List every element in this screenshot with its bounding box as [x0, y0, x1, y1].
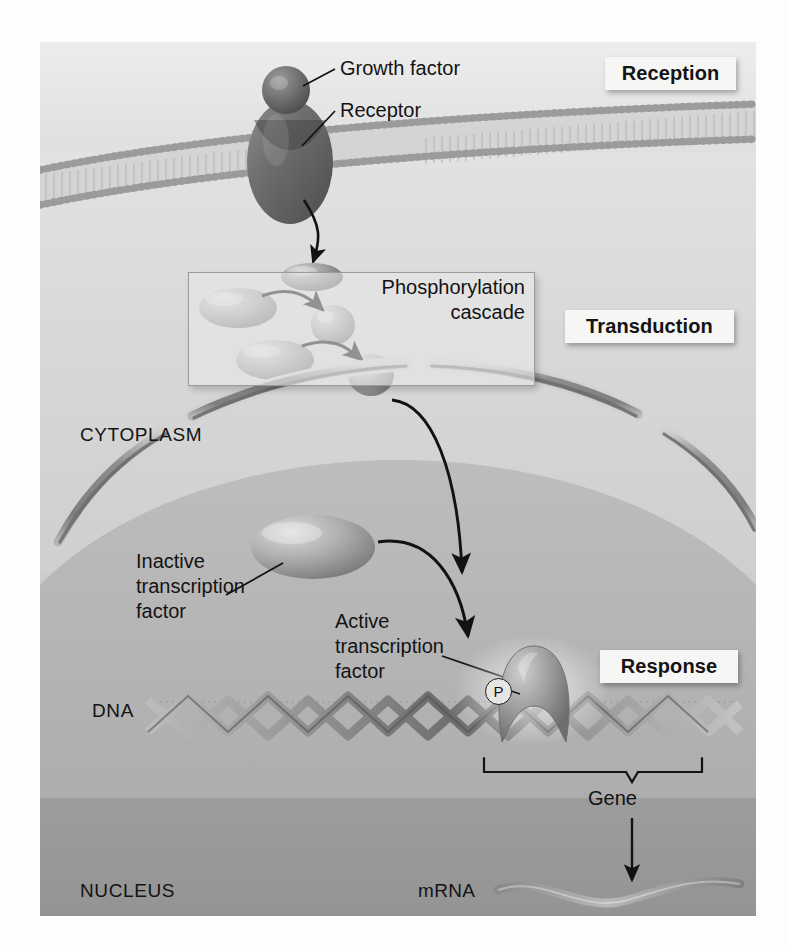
dna-double-helix — [148, 696, 740, 736]
nucleus-label: NUCLEUS — [80, 878, 175, 903]
growth-factor-label: Growth factor — [340, 56, 460, 81]
diagram-artwork — [40, 42, 756, 916]
mrna-transcript — [498, 881, 740, 903]
inactive-transcription-factor-label: Inactive transcription factor — [136, 549, 245, 624]
active-transcription-factor-label: Active transcription factor — [335, 609, 444, 684]
growth-factor-shape — [262, 66, 310, 114]
leader-growth-factor — [303, 69, 335, 86]
inactive-transcription-factor — [251, 515, 375, 579]
gene-label: Gene — [588, 786, 637, 811]
dna-label: DNA — [92, 698, 134, 723]
phosphate-badge: P — [485, 678, 512, 705]
stage-label-reception: Reception — [605, 57, 736, 90]
gene-bracket — [484, 758, 702, 782]
active-transcription-factor — [454, 634, 610, 746]
phosphorylation-cascade-label: Phosphorylation cascade — [353, 275, 525, 325]
cytoplasm-label: CYTOPLASM — [80, 422, 202, 447]
stage-label-transduction: Transduction — [565, 310, 734, 343]
figure-canvas: Growth factor Receptor Phosphorylation c… — [0, 0, 787, 945]
diagram-plate: Growth factor Receptor Phosphorylation c… — [40, 42, 756, 916]
arrow-cascade-to-nucleus — [392, 400, 462, 572]
nuclear-envelope — [58, 364, 756, 542]
stage-label-response: Response — [600, 650, 738, 683]
receptor-complex — [247, 66, 333, 224]
mrna-label: mRNA — [418, 878, 475, 903]
receptor-shape — [247, 100, 333, 224]
receptor-label: Receptor — [340, 98, 421, 123]
